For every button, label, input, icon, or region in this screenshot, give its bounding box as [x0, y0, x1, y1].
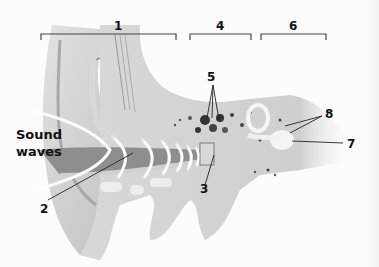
label-8-semicircular-canals: 8 — [325, 108, 333, 120]
label-2-ear-canal: 2 — [40, 203, 48, 215]
label-5-ossicles: 5 — [207, 71, 215, 83]
label-1-outer-ear: 1 — [114, 20, 122, 32]
head-tissue — [80, 25, 355, 260]
label-7-cochlea: 7 — [347, 138, 355, 150]
label-6-inner-ear: 6 — [289, 20, 297, 32]
label-3-eardrum: 3 — [200, 183, 208, 195]
sound-waves-caption: Sound waves — [16, 126, 62, 160]
label-4-middle-ear: 4 — [216, 20, 224, 32]
caption-line-2: waves — [16, 143, 62, 160]
page-edge-shadow — [365, 0, 379, 267]
caption-line-1: Sound — [16, 126, 62, 143]
ear-diagram: Sound waves 1 2 3 4 5 6 7 8 — [0, 0, 379, 267]
